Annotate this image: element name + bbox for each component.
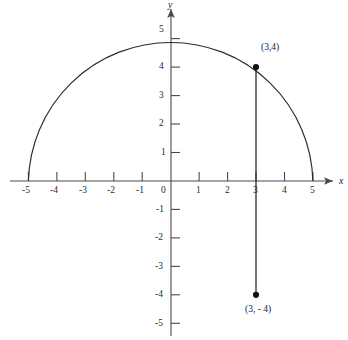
x-tick-label-pos2: 2 [225, 186, 230, 196]
plot-canvas [0, 0, 348, 340]
y-tick-label-pos3: 3 [159, 91, 164, 101]
x-tick-label-neg1: -1 [136, 186, 144, 196]
x-tick-label-neg5: -5 [22, 186, 30, 196]
x-tick-label-neg4: -4 [50, 186, 58, 196]
x-tick-label-pos3: 3 [253, 186, 258, 196]
y-tick-label-neg1: -1 [156, 205, 164, 215]
y-tick-label-neg2: -2 [155, 233, 163, 243]
y-tick-label-neg4: -4 [155, 290, 163, 300]
x-tick-label-zero: 0 [161, 186, 166, 196]
lower-point-annotation: (3, - 4) [245, 305, 271, 315]
y-tick-label-pos1: 1 [161, 148, 166, 158]
data-point-upper [253, 64, 259, 70]
x-tick-label-pos5: 5 [310, 186, 315, 196]
y-tick-label-pos5: 5 [159, 25, 164, 35]
x-axis-label: x [339, 176, 343, 186]
x-tick-label-neg3: -3 [79, 186, 87, 196]
y-tick-label-pos2: 2 [159, 119, 164, 129]
x-tick-label-neg2: -2 [107, 186, 115, 196]
x-tick-label-pos1: 1 [196, 186, 201, 196]
y-tick-label-neg3: -3 [155, 262, 163, 272]
coordinate-plane-figure: x y -5 -4 -3 -2 -1 0 1 2 3 4 5 5 4 3 2 1… [0, 0, 348, 340]
upper-point-annotation: (3,4) [261, 43, 279, 53]
y-tick-label-pos4: 4 [159, 62, 164, 72]
y-axis-label: y [168, 0, 172, 10]
x-tick-label-pos4: 4 [282, 186, 287, 196]
y-tick-label-neg5: -5 [155, 319, 163, 329]
data-point-lower [253, 292, 259, 298]
